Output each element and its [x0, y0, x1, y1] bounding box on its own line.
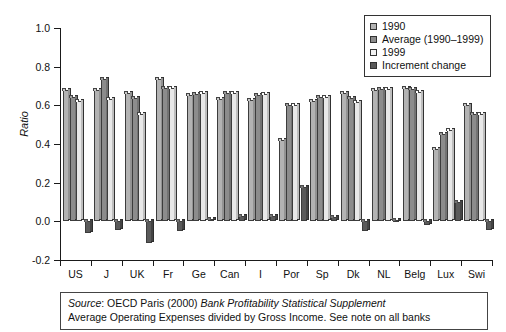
bar-lux-0 — [433, 149, 439, 222]
bar-us-0 — [63, 90, 69, 221]
bar-side-face — [90, 219, 93, 232]
bar-sp-1 — [317, 97, 323, 222]
bar-side-face — [491, 219, 494, 229]
bar-swi-1 — [471, 114, 477, 221]
y-tick-label: -0.2 — [8, 255, 50, 265]
bar-top-face — [75, 99, 79, 102]
x-tick-mark — [245, 260, 246, 266]
bar-uk-1 — [132, 98, 138, 222]
bar-lux-2 — [447, 130, 453, 222]
source-publication: Bank Profitability Statistical Supplemen… — [200, 297, 385, 309]
bar-us-increment — [85, 221, 91, 233]
bar-j-2 — [107, 99, 113, 222]
bar-side-face — [236, 91, 239, 221]
bar-fr-2 — [169, 88, 175, 221]
bar-top-face — [199, 91, 203, 94]
bar-top-face — [377, 87, 381, 90]
legend-item-0: 1990 — [370, 20, 483, 33]
legend-label: 1999 — [382, 46, 405, 59]
bar-side-face — [328, 95, 331, 221]
bar-side-face — [143, 112, 146, 220]
bar-side-face — [174, 86, 177, 220]
source-note: Source: OECD Paris (2000) Bank Profitabi… — [60, 292, 488, 330]
bar-por-0 — [279, 140, 285, 221]
bar-uk-0 — [125, 93, 131, 222]
x-category-label-ge: Ge — [183, 268, 214, 280]
bar-i-increment — [270, 216, 276, 222]
x-tick-mark — [276, 260, 277, 266]
bar-side-face — [367, 219, 370, 230]
bar-side-face — [421, 90, 424, 221]
x-tick-mark — [122, 260, 123, 266]
bar-por-2 — [292, 105, 298, 221]
bar-side-face — [151, 219, 154, 241]
x-tick-mark — [430, 260, 431, 266]
bar-ge-2 — [200, 93, 206, 222]
x-category-label-lux: Lux — [430, 268, 461, 280]
bar-top-face — [291, 103, 295, 106]
bar-us-1 — [70, 97, 76, 222]
x-tick-mark — [60, 260, 61, 266]
bar-top-face — [69, 95, 73, 98]
chart-figure: Ratio 1.00.80.60.40.20.0-0.2 USJUKFrGeCa… — [0, 0, 506, 332]
bar-i-1 — [255, 95, 261, 222]
bar-j-0 — [94, 90, 100, 221]
bar-can-2 — [231, 93, 237, 222]
bar-top-face — [392, 218, 396, 221]
y-tick-label: 0.2 — [8, 178, 50, 188]
bar-por-increment — [301, 187, 307, 222]
bar-side-face — [267, 92, 270, 221]
bar-i-0 — [248, 100, 254, 222]
bar-top-face — [223, 91, 227, 94]
bar-side-face — [182, 219, 185, 230]
x-tick-mark — [183, 260, 184, 266]
bar-swi-increment — [486, 221, 492, 230]
bar-top-face — [300, 185, 304, 188]
x-tick-mark — [338, 260, 339, 266]
bar-top-face — [485, 219, 489, 222]
x-tick-mark — [153, 260, 154, 266]
bar-can-increment — [239, 216, 245, 222]
x-tick-mark — [461, 260, 462, 266]
source-note-line-2: Average Operating Expenses divided by Gr… — [68, 311, 480, 325]
bar-top-face — [114, 219, 118, 222]
bar-top-face — [402, 86, 406, 89]
legend-label: Increment change — [382, 59, 466, 72]
bar-top-face — [340, 91, 344, 94]
bar-ge-increment — [208, 219, 214, 221]
bar-top-face — [477, 112, 481, 115]
legend-swatch-icon — [370, 36, 377, 43]
bar-fr-increment — [177, 221, 183, 231]
bar-belg-0 — [403, 88, 409, 221]
bar-belg-increment — [424, 221, 430, 225]
bar-top-face — [463, 103, 467, 106]
x-category-label-belg: Belg — [399, 268, 430, 280]
bar-swi-0 — [464, 105, 470, 221]
bar-top-face — [247, 98, 251, 101]
bar-top-face — [216, 97, 220, 100]
bar-top-face — [432, 147, 436, 150]
bar-top-face — [207, 217, 211, 220]
y-tick-label: 0.4 — [8, 139, 50, 149]
x-tick-mark — [307, 260, 308, 266]
bar-top-face — [309, 99, 313, 102]
bar-top-face — [384, 87, 388, 90]
bar-nl-increment — [393, 220, 399, 222]
x-category-label-can: Can — [214, 268, 245, 280]
legend-label: 1990 — [382, 20, 405, 33]
bar-dk-0 — [341, 93, 347, 222]
bar-top-face — [470, 112, 474, 115]
bar-top-face — [415, 90, 419, 93]
source-note-line-1: Source: OECD Paris (2000) Bank Profitabi… — [68, 297, 480, 311]
chart-legend: 1990Average (1990–1999)1999Increment cha… — [364, 15, 491, 77]
bar-swi-2 — [478, 114, 484, 221]
source-mid: : OECD Paris (2000) — [101, 297, 200, 309]
y-tick-label: 0.8 — [8, 62, 50, 72]
y-tick-label: 1.0 — [8, 23, 50, 33]
bar-sp-0 — [310, 101, 316, 222]
bar-top-face — [84, 219, 88, 222]
bar-belg-1 — [409, 89, 415, 221]
x-category-label-us: US — [60, 268, 91, 280]
bar-dk-1 — [348, 98, 354, 222]
bar-belg-2 — [416, 92, 422, 222]
